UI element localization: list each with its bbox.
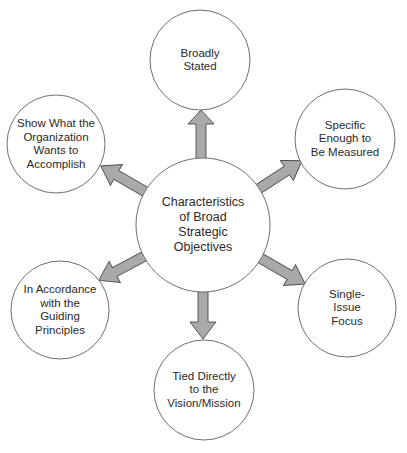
node-label-lower-left: In Accordance with the Guiding Principle… <box>12 276 108 344</box>
node-label-upper-right: Specific Enough to Be Measured <box>298 108 392 170</box>
node-label-bottom: Tied Directly to the Vision/Mission <box>157 360 251 420</box>
arrow-to-top <box>188 110 214 159</box>
node-label-lower-right: Single- Issue Focus <box>302 278 392 338</box>
node-label-top: Broadly Stated <box>155 30 245 90</box>
center-label: Characteristics of Broad Strategic Objec… <box>143 175 263 275</box>
node-label-upper-left: Show What the Organization Wants to Acco… <box>8 110 104 178</box>
arrow-to-bottom <box>190 291 216 339</box>
